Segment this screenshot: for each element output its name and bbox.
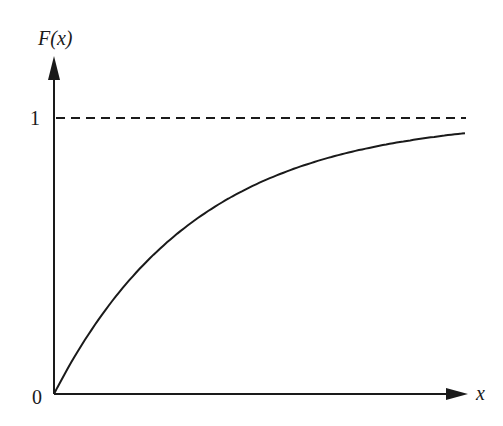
cdf-curve [54, 133, 465, 394]
y-axis-arrow-icon [48, 56, 60, 80]
cdf-chart: F(x) 1 0 x [0, 0, 503, 426]
origin-label: 0 [32, 386, 42, 408]
x-axis-label: x [475, 382, 485, 404]
x-axis-arrow-icon [446, 388, 468, 400]
y-tick-one: 1 [30, 107, 40, 129]
y-axis-label: F(x) [37, 27, 73, 50]
